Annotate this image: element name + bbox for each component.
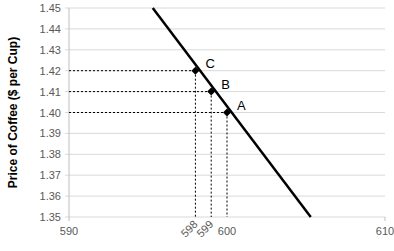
- chart: 1.451.441.431.421.411.401.391.381.371.36…: [0, 0, 394, 251]
- x-tick-label: 590: [60, 225, 78, 237]
- y-tick-label: 1.39: [40, 127, 61, 139]
- y-tick-label: 1.45: [40, 2, 61, 14]
- x-tick-label: 610: [376, 225, 394, 237]
- y-tick-label: 1.37: [40, 169, 61, 181]
- y-tick-label: 1.41: [40, 86, 61, 98]
- y-axis-label: Price of Coffee ($ per Cup): [6, 37, 20, 188]
- y-tick-label: 1.40: [40, 107, 61, 119]
- point-label: B: [221, 77, 230, 92]
- y-tick-label: 1.44: [40, 23, 61, 35]
- x-tick-label-rotated: 599: [194, 218, 215, 239]
- y-tick-label: 1.42: [40, 65, 61, 77]
- y-tick-label: 1.36: [40, 190, 61, 202]
- y-tick-label: 1.35: [40, 211, 61, 223]
- point-label: C: [205, 56, 214, 71]
- point-label: A: [237, 98, 246, 113]
- x-tick-label: 600: [218, 225, 236, 237]
- y-tick-label: 1.38: [40, 148, 61, 160]
- y-tick-label: 1.43: [40, 44, 61, 56]
